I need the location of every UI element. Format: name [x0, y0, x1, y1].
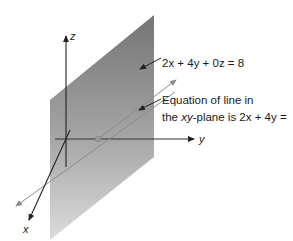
- z-axis-label: z: [69, 30, 76, 42]
- x-axis-label: x: [22, 223, 29, 235]
- intersection-point: [95, 136, 101, 142]
- plane-equation-label: 2x + 4y + 0z = 8: [162, 57, 244, 69]
- line-label-line2: the xy-plane is 2x + 4y =: [162, 111, 287, 123]
- line-label-line1: Equation of line in: [162, 94, 253, 106]
- line-label-suffix: -plane is 2x + 4y =: [193, 111, 287, 123]
- plane-diagram: z y x 2x + 4y + 0z = 8 Equation of line …: [0, 0, 293, 241]
- line-label-prefix: the: [162, 111, 181, 123]
- y-axis-label: y: [198, 133, 206, 145]
